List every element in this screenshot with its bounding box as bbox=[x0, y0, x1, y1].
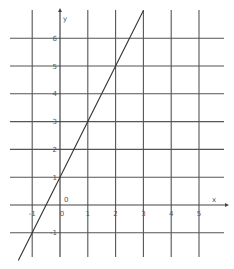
x-tick-label: 0 bbox=[60, 210, 64, 218]
graph: -1012345654321-1 x y 0 bbox=[0, 0, 234, 269]
x-tick-label: 1 bbox=[86, 210, 90, 218]
x-axis-label: x bbox=[212, 196, 216, 204]
y-tick-label: 2 bbox=[53, 146, 57, 154]
y-tick-label: 4 bbox=[53, 90, 58, 98]
y-tick-label: 6 bbox=[53, 35, 58, 43]
grid-lines bbox=[10, 10, 224, 257]
x-tick-label: 5 bbox=[197, 210, 201, 218]
x-tick-label: -1 bbox=[29, 210, 36, 218]
y-tick-label: -1 bbox=[50, 229, 57, 237]
tick-labels: -1012345654321-1 bbox=[29, 35, 202, 238]
x-axis-arrow-icon bbox=[225, 203, 229, 207]
axes bbox=[10, 8, 229, 257]
series-line bbox=[18, 10, 143, 260]
x-tick-label: 2 bbox=[113, 210, 117, 218]
origin-label: 0 bbox=[64, 196, 68, 204]
y-tick-label: 5 bbox=[53, 63, 57, 71]
y-axis-arrow-icon bbox=[58, 8, 62, 12]
x-tick-label: 4 bbox=[169, 210, 174, 218]
y-axis-label: y bbox=[63, 15, 67, 23]
x-tick-label: 3 bbox=[141, 210, 145, 218]
y-tick-label: 3 bbox=[53, 118, 57, 126]
y-tick-label: 1 bbox=[53, 174, 57, 182]
plotted-line bbox=[18, 10, 143, 260]
